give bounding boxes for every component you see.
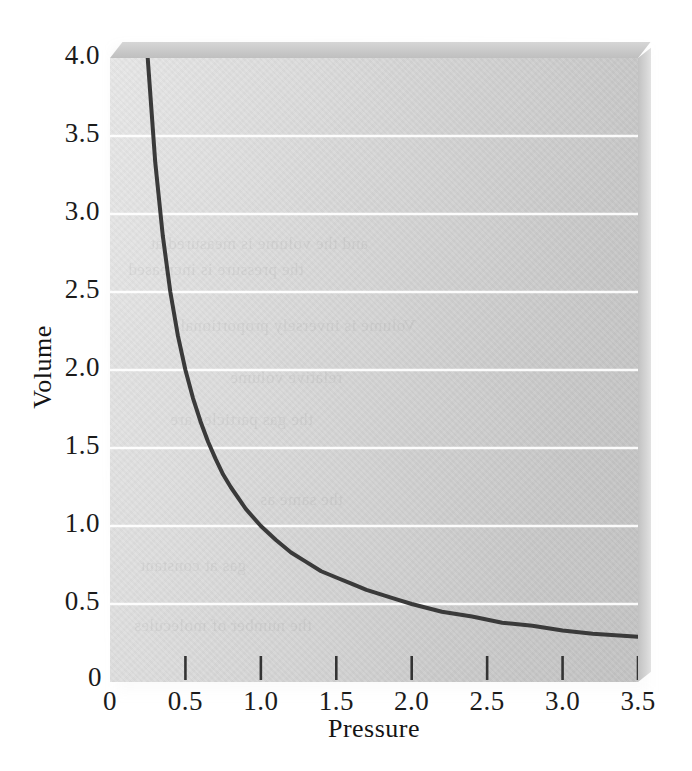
figure-boyles-law: and the volume is measured at the pressu… xyxy=(0,0,692,771)
x-tick-label: 1.0 xyxy=(226,686,296,717)
x-tick-label: 2.5 xyxy=(452,686,522,717)
x-axis-title: Pressure xyxy=(110,714,638,744)
y-axis-title: Volume xyxy=(28,302,58,432)
x-tick-label: 0.5 xyxy=(150,686,220,717)
panel-bevel-top-face xyxy=(110,42,651,58)
y-tick-label: 1.0 xyxy=(4,508,100,539)
x-tick-label: 2.0 xyxy=(377,686,447,717)
y-tick-label: 3.0 xyxy=(4,196,100,227)
x-tick-label: 3.0 xyxy=(528,686,598,717)
y-tick-label: 0.5 xyxy=(4,586,100,617)
x-tick-label: 0 xyxy=(75,686,145,717)
x-tick-label: 3.5 xyxy=(603,686,673,717)
x-axis-tick-marks xyxy=(110,58,638,682)
y-tick-label: 1.5 xyxy=(4,430,100,461)
y-tick-label: 4.0 xyxy=(4,40,100,71)
plot-area: and the volume is measured at the pressu… xyxy=(110,58,638,682)
x-tick-label: 1.5 xyxy=(301,686,371,717)
y-tick-label: 2.5 xyxy=(4,274,100,305)
y-tick-label: 3.5 xyxy=(4,118,100,149)
panel-bevel-right-face xyxy=(638,48,651,682)
